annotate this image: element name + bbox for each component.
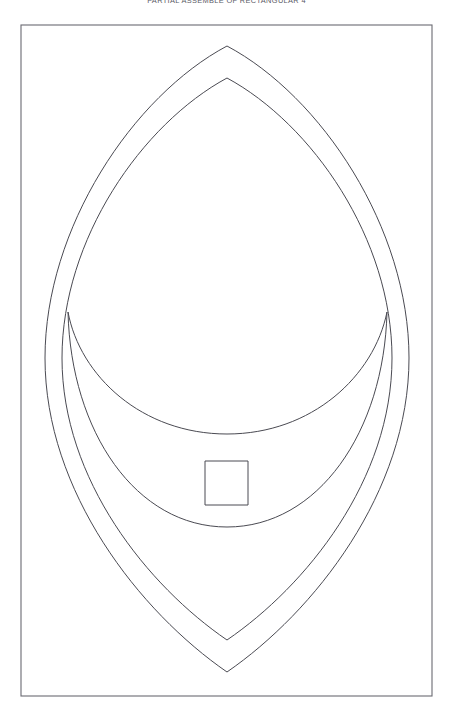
crescent-moon-shape <box>68 312 387 527</box>
figure-page: PARTIAL ASSEMBLE OF RECTANGULAR 4 <box>0 0 453 720</box>
small-square <box>205 461 248 505</box>
technical-line-drawing <box>0 0 453 720</box>
outer-pointed-oval <box>45 46 409 672</box>
drawing-border <box>21 25 432 696</box>
